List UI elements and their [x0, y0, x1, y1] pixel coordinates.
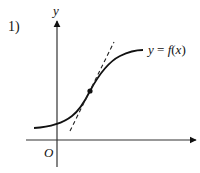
origin-label: O — [44, 145, 54, 160]
curve-label: y = f(x) — [146, 42, 186, 57]
tangent-line — [70, 42, 114, 131]
function-graph: 1) y O y = f(x) — [0, 0, 200, 173]
tangency-point — [87, 88, 92, 93]
problem-number: 1) — [8, 19, 20, 35]
y-axis-label: y — [51, 3, 59, 18]
